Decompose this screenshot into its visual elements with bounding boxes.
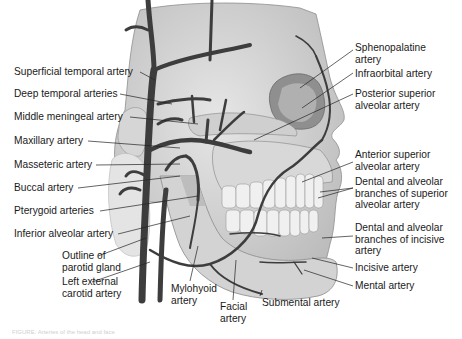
label-line: Dental and alveolar (355, 176, 448, 188)
label-incisive-artery: Incisive artery (355, 262, 418, 274)
label-line: Sphenopalatine (355, 42, 426, 54)
label-middle-meningeal-artery: Middle meningeal artery (14, 111, 123, 123)
label-line: branches of superior (355, 188, 448, 200)
label-facial-artery: Facial artery (220, 301, 247, 324)
label-line: parotid gland (62, 262, 121, 274)
label-deep-temporal-arteries: Deep temporal arteries (14, 88, 118, 100)
label-line: Left external (62, 276, 121, 288)
label-dental-alveolar-incisive: Dental and alveolar branches of incisive… (355, 222, 444, 257)
label-infraorbital-artery: Infraorbital artery (355, 68, 432, 80)
label-parotid-outline: Outline of parotid gland (62, 250, 121, 273)
anatomy-figure: Superficial temporal artery Deep tempora… (0, 0, 462, 339)
label-line: Outline of (62, 250, 121, 262)
label-pterygoid-arteries: Pterygoid arteries (14, 205, 94, 217)
label-mylohyoid-artery: Mylohyoid artery (171, 283, 217, 306)
label-line: alveolar artery (355, 100, 435, 112)
label-line: artery (220, 313, 247, 325)
label-masseteric-artery: Masseteric artery (14, 159, 92, 171)
label-line: Facial (220, 301, 247, 313)
label-line: alveolar artery (355, 199, 448, 211)
label-line: Dental and alveolar (355, 222, 444, 234)
label-line: Mylohyoid (171, 283, 217, 295)
label-line: alveolar artery (355, 161, 430, 173)
label-superficial-temporal-artery: Superficial temporal artery (14, 66, 133, 78)
label-line: artery (171, 295, 217, 307)
figure-caption: FIGURE: Arteries of the head and face (12, 329, 115, 335)
label-buccal-artery: Buccal artery (14, 182, 73, 194)
label-line: branches of incisive (355, 234, 444, 246)
label-submental-artery: Submental artery (262, 297, 340, 309)
label-line: artery (355, 54, 426, 66)
label-inferior-alveolar-artery: Inferior alveolar artery (14, 228, 113, 240)
label-dental-alveolar-superior: Dental and alveolar branches of superior… (355, 176, 448, 211)
label-mental-artery: Mental artery (355, 280, 414, 292)
label-sphenopalatine-artery: Sphenopalatine artery (355, 42, 426, 65)
label-anterior-superior-alveolar-artery: Anterior superior alveolar artery (355, 149, 430, 172)
label-posterior-superior-alveolar-artery: Posterior superior alveolar artery (355, 88, 435, 111)
label-line: artery (355, 245, 444, 257)
label-left-external-carotid-artery: Left external carotid artery (62, 276, 121, 299)
label-maxillary-artery: Maxillary artery (14, 135, 83, 147)
label-line: Posterior superior (355, 88, 435, 100)
label-line: Anterior superior (355, 149, 430, 161)
label-line: carotid artery (62, 288, 121, 300)
